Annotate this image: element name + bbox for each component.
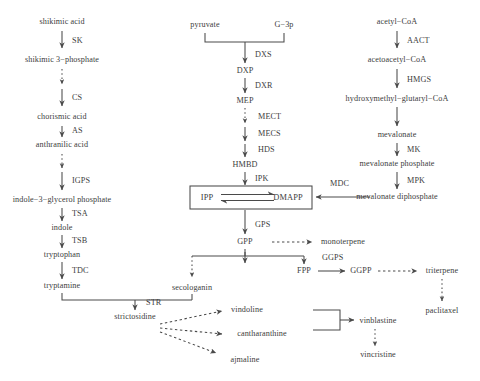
enzyme-hds: HDS (258, 146, 275, 154)
metabolite-chorismic-acid: chorismic acid (37, 113, 86, 121)
enzyme-tdc: TDC (72, 267, 89, 275)
edge-bracket-vinblastine (313, 310, 340, 330)
metabolite-fpp: FPP (297, 267, 311, 275)
enzyme-str: STR (146, 299, 161, 307)
enzyme-ipk: IPK (255, 175, 269, 183)
edge-strictosidine-to-ajmaline (160, 332, 216, 353)
enzyme-mecs: MECS (258, 130, 281, 138)
enzyme-igps: IGPS (72, 177, 90, 185)
metabolite-indole: indole (51, 224, 72, 232)
metabolite-g3p: G−3p (274, 21, 293, 29)
metabolite-anthranilic-acid: anthranilic acid (36, 141, 88, 149)
metabolite-hmbd: HMBD (233, 161, 258, 169)
metabolite-mevalonate-phosphate: mevalonate phosphate (360, 160, 435, 168)
metabolite-shikimic-3-phosphate: shikimic 3−phosphate (25, 56, 99, 64)
metabolite-strictosidine: strictosidine (114, 313, 155, 321)
metabolite-acetoacetyl-coa: acetoacetyl−CoA (368, 56, 426, 64)
enzyme-mk: MK (407, 146, 420, 154)
pathway-diagram: shikimic acid shikimic 3−phosphate chori… (0, 0, 480, 381)
metabolite-vincristine: vincristine (360, 351, 396, 359)
enzyme-hmgs: HMGS (407, 76, 431, 84)
edge-bracket-pyruvate-g3p (205, 33, 284, 42)
enzyme-as: AS (72, 127, 83, 135)
metabolite-mep: MEP (236, 97, 253, 105)
metabolite-ajmaline: ajmaline (231, 356, 260, 364)
metabolite-mevalonate: mevalonate (378, 131, 417, 139)
metabolite-gpp: GPP (237, 238, 252, 246)
metabolite-triterpene: triterpene (426, 267, 458, 275)
metabolite-vinblastine: vinblastine (359, 317, 396, 325)
enzyme-mpk: MPK (407, 177, 425, 185)
enzyme-dxs: DXS (255, 51, 272, 59)
enzyme-sk: SK (72, 37, 83, 45)
edge-strictosidine-to-catharanthine (160, 328, 222, 334)
metabolite-secologanin: secologanin (172, 284, 212, 292)
metabolite-catharanthine: cantharanthine (237, 330, 287, 338)
metabolite-tryptophan: tryptophan (44, 251, 80, 259)
enzyme-tsb: TSB (72, 237, 87, 245)
edge-bracket-tryptamine-secologanin (62, 293, 192, 300)
edge-strictosidine-to-vindoline (160, 311, 222, 324)
metabolite-ipp: IPP (201, 193, 213, 201)
enzyme-dxr: DXR (255, 82, 273, 90)
enzyme-aact: AACT (407, 37, 430, 45)
metabolite-hmg-coa: hydroxymethyl−glutaryl−CoA (346, 95, 449, 103)
metabolite-monoterpene: monoterpene (321, 238, 365, 246)
enzyme-gps: GPS (255, 221, 270, 229)
enzyme-mect: MECT (258, 113, 281, 121)
metabolite-pyruvate: pyruvate (190, 21, 219, 29)
metabolite-indole-3-glycerol-phosphate: indole−3−glycerol phosphate (13, 196, 112, 204)
metabolite-mevalonate-diphosphate: mevalonate diphosphate (356, 193, 438, 201)
metabolite-acetyl-coa: acetyl−CoA (377, 18, 418, 26)
metabolite-dxp: DXP (237, 67, 254, 75)
metabolite-shikimic-acid: shikimic acid (39, 18, 84, 26)
metabolite-paclitaxel: paclitaxel (426, 307, 459, 315)
enzyme-mdc: MDC (330, 180, 349, 188)
enzyme-cs: CS (72, 94, 82, 102)
metabolite-dmapp: DMAPP (273, 193, 302, 201)
metabolite-vindoline: vindoline (231, 306, 263, 314)
metabolite-tryptamine: tryptamine (44, 282, 80, 290)
enzyme-tsa: TSA (72, 210, 88, 218)
metabolite-ggpp: GGPP (350, 267, 371, 275)
enzyme-ggps: GGPS (322, 254, 343, 262)
